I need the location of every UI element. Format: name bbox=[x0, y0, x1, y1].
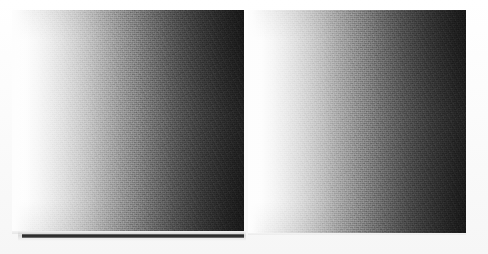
right-panel-seam bbox=[248, 233, 466, 235]
right-gradient-panel bbox=[248, 10, 466, 233]
left-under-rule bbox=[22, 234, 244, 238]
screenshot-canvas bbox=[0, 0, 488, 254]
right-panel-edge-feather bbox=[248, 10, 466, 233]
left-panel-edge-feather bbox=[12, 10, 244, 232]
left-gradient-panel bbox=[12, 10, 244, 232]
